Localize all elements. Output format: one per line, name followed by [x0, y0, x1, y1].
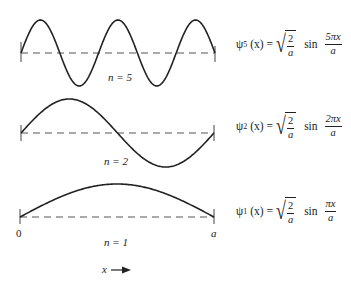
equation-psi1: ψ1 (x) = √2a sin πxa	[236, 197, 338, 225]
sqrt-numerator: 2	[287, 34, 294, 47]
sqrt-denominator: a	[288, 47, 293, 59]
sqrt-numerator: 2	[287, 201, 294, 214]
psi-subscript: 1	[243, 207, 247, 216]
psi-subscript: 2	[243, 122, 247, 131]
sqrt-denominator: a	[288, 214, 293, 226]
sqrt-term: √2a	[276, 112, 296, 140]
sqrt-term: √2a	[276, 197, 296, 225]
sqrt-denominator: a	[288, 129, 293, 141]
sqrt-numerator: 2	[287, 116, 294, 129]
equation-arg: (x) =	[250, 38, 273, 50]
equation-psi5: ψ5 (x) = √2a sin 5πxa	[236, 30, 344, 58]
arg-denominator: a	[331, 127, 336, 139]
sin-function: sin	[304, 120, 317, 132]
psi-symbol: ψ	[236, 205, 243, 217]
arg-numerator: 2πx	[325, 114, 342, 127]
equation-psi2: ψ2 (x) = √2a sin 2πxa	[236, 112, 344, 140]
psi-subscript: 5	[243, 40, 247, 49]
arrow-head-icon	[122, 267, 131, 274]
sqrt-term: √2a	[276, 30, 296, 58]
sin-argument: πxa	[325, 199, 337, 223]
arg-numerator: 5πx	[325, 32, 342, 45]
axis-label-zero: 0	[16, 227, 22, 239]
psi-symbol: ψ	[236, 38, 243, 50]
sin-function: sin	[304, 205, 317, 217]
psi-symbol: ψ	[236, 120, 243, 132]
axis-label-a: a	[211, 227, 217, 239]
equation-arg: (x) =	[250, 120, 273, 132]
sin-function: sin	[304, 38, 317, 50]
arg-denominator: a	[328, 212, 333, 224]
label-n5: n = 5	[108, 71, 132, 83]
arg-denominator: a	[331, 45, 336, 57]
arg-numerator: πx	[325, 199, 337, 212]
equation-arg: (x) =	[250, 205, 273, 217]
x-direction-arrow	[111, 267, 131, 274]
label-n1: n = 1	[104, 236, 128, 248]
sin-argument: 2πxa	[325, 114, 342, 138]
panel-n1	[20, 184, 214, 224]
sin-argument: 5πxa	[325, 32, 342, 56]
x-arrow-label: x	[102, 263, 107, 275]
wave-curve-n1	[20, 184, 214, 217]
label-n2: n = 2	[104, 155, 128, 167]
